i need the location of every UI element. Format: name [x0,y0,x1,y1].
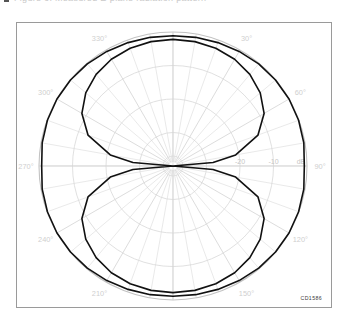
grid-spoke [87,169,171,269]
radial-labels: -20-10dB [235,158,306,165]
grid-spoke [127,170,171,292]
radial-tick-label: -10 [268,158,278,165]
grid-spoke [127,40,171,162]
figure-caption-text: Figure 6. Measured E-plane radiation pat… [14,0,206,3]
grid-spoke [177,167,299,211]
grid-spoke [177,167,305,190]
grid-spoke [47,120,169,164]
angle-label: 0° [169,23,176,24]
angle-label: 300° [38,88,53,97]
grid-spoke [174,170,197,298]
figure-caption-strip: Figure 6. Measured E-plane radiation pat… [0,0,348,18]
angle-label: 150° [239,289,254,298]
figure-frame: 0°30°60°90°120°150°180°210°240°270°300°3… [16,22,332,308]
angle-label: 60° [295,88,306,97]
grid-spoke [150,34,173,162]
square-bullet-icon [4,0,9,2]
angle-label: 330° [92,34,107,43]
angle-label: 270° [18,162,33,171]
grid-spoke [47,167,169,211]
grid-spoke [174,34,197,162]
grid-spoke [150,170,173,298]
grid-spoke [176,169,260,269]
grid-spoke [174,170,218,292]
grid-spoke [176,63,260,163]
angle-label: 90° [314,162,325,171]
angle-label: 240° [38,235,53,244]
grid-spoke [87,63,171,163]
plot-identifier-code: CD1586 [301,295,322,301]
radial-tick-label: -20 [235,158,245,165]
angle-label: 210° [92,289,107,298]
grid-spoke [174,40,218,162]
polar-radiation-chart: 0°30°60°90°120°150°180°210°240°270°300°3… [17,23,331,307]
angle-label: 30° [241,34,252,43]
grid-spoke [41,143,169,166]
grid-spoke [41,167,169,190]
angle-label: 120° [293,235,308,244]
